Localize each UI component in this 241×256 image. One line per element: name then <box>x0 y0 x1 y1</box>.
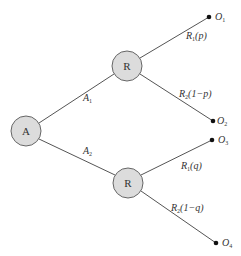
outcome-label-4: O4 <box>222 237 232 249</box>
edge-label-r2q: R2(1−q) <box>170 202 204 214</box>
node-r-top: R <box>112 51 142 81</box>
edge-a2 <box>39 139 115 175</box>
outcome-label-2: O2 <box>217 115 227 127</box>
edge-label-a1: A1 <box>82 92 92 104</box>
outcome-label-1: O1 <box>215 11 225 23</box>
outcome-dot-1 <box>207 15 212 20</box>
outcome-dot-4 <box>214 241 219 246</box>
edge-label-r1q: R1(q) <box>180 160 202 172</box>
outcome-dot-3 <box>210 138 215 143</box>
edge-r2q <box>141 191 216 243</box>
node-root-label: A <box>22 125 30 137</box>
node-r-bottom-label: R <box>124 177 132 189</box>
node-root: A <box>11 116 41 146</box>
decision-tree-diagram: A R R A1 A2 R1(p) R2(1−p) R1(q) R2(1−q) … <box>0 0 241 256</box>
edge-label-r2p: R2(1−p) <box>178 88 212 100</box>
outcome-dot-2 <box>211 119 216 124</box>
edge-label-r1p: R1(p) <box>185 30 207 42</box>
outcome-label-3: O3 <box>218 134 228 146</box>
edge-label-a2: A2 <box>82 145 92 157</box>
edge-a1 <box>39 74 114 123</box>
node-r-top-label: R <box>123 60 131 72</box>
node-r-bottom: R <box>113 168 143 198</box>
